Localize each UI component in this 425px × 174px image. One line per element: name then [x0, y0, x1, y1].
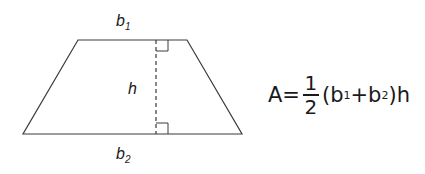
label-h: h	[128, 80, 137, 98]
fraction-numerator: 1	[305, 73, 318, 93]
formula-sub2: 2	[381, 89, 388, 102]
formula-open: (b	[322, 83, 344, 107]
fraction-denominator: 2	[305, 97, 318, 117]
formula-plus: +b	[351, 83, 382, 107]
label-b2: b2	[116, 145, 130, 165]
formula-lhs: A=	[268, 83, 300, 107]
formula-close: )h	[388, 83, 410, 107]
right-angle-bottom	[156, 123, 168, 134]
formula-sub1: 1	[344, 89, 351, 102]
formula-fraction: 1 2	[303, 73, 319, 117]
area-formula: A= 1 2 (b1+b2)h	[268, 72, 410, 118]
right-angle-top	[156, 40, 168, 51]
label-b1: b1	[116, 12, 130, 32]
